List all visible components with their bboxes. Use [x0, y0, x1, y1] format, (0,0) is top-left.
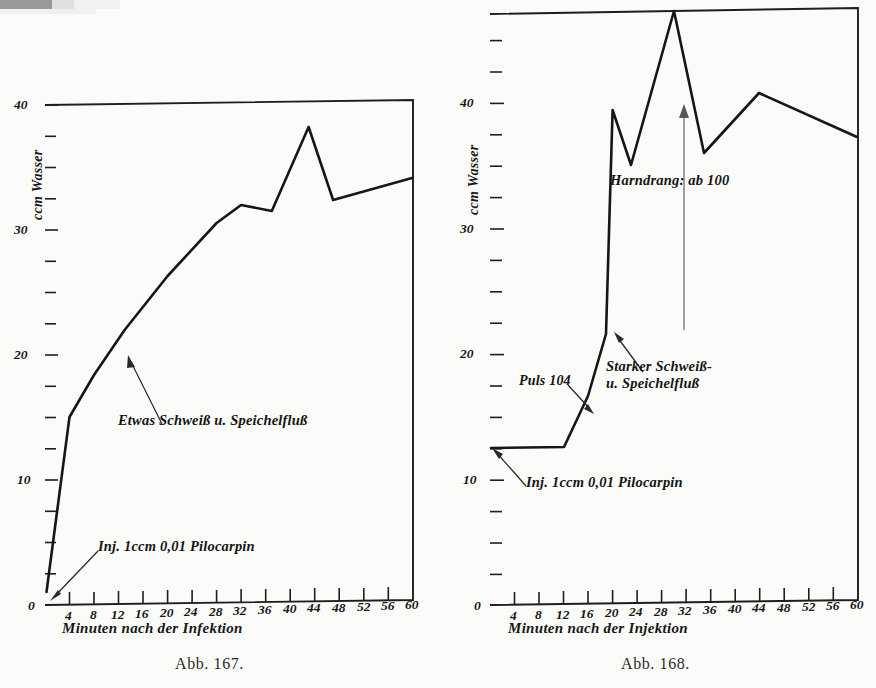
fig167-ytick-30: 30: [14, 222, 28, 238]
fig168-y-ticks: [490, 41, 504, 575]
fig168-ytick-10: 10: [463, 472, 477, 488]
fig168-annotation-urge-to-urinate: Harndrang: ab 100: [610, 172, 729, 189]
fig168-ytick-30: 30: [460, 221, 474, 237]
fig168-xtick-36: 36: [703, 602, 717, 618]
fig167-xtick-56: 56: [381, 598, 395, 614]
fig168-xtick-40: 40: [728, 601, 742, 617]
fig167-xtick-40: 40: [283, 601, 297, 617]
fig168-xtick-60: 60: [850, 597, 864, 613]
fig168-plot: [438, 0, 876, 640]
fig167-xtick-52: 52: [357, 599, 371, 615]
fig168-ytick-0: 0: [474, 598, 481, 614]
fig168-caption: Abb. 168.: [621, 655, 690, 673]
fig168-y-axis-label: ccm Wasser: [466, 144, 482, 215]
fig168-xtick-28: 28: [654, 604, 668, 620]
fig167-plot-frame: [45, 100, 413, 605]
fig167-ytick-10: 10: [17, 472, 31, 488]
fig168-annotation-pulse: Puls 104: [519, 373, 571, 390]
fig167-xtick-20: 20: [160, 605, 174, 621]
fig168-annotation-strong-sweat-saliva: Starker Schweiß- u. Speichelfluß: [606, 358, 712, 392]
fig168-annotation-injection: Inj. 1ccm 0,01 Pilocarpin: [526, 474, 683, 491]
fig168-xtick-52: 52: [802, 599, 816, 615]
fig167-ytick-40: 40: [14, 97, 28, 113]
fig168-xtick-32: 32: [678, 603, 692, 619]
fig167-xtick-48: 48: [332, 600, 346, 616]
scanned-page: ccm Wasser: [0, 0, 876, 688]
fig167-xtick-36: 36: [258, 602, 272, 618]
fig167-ytick-0: 0: [28, 598, 35, 614]
figure-168: ccm Wasser: [438, 0, 876, 688]
fig168-ytick-40: 40: [460, 95, 474, 111]
fig167-data-line: [47, 127, 413, 592]
fig167-ytick-20: 20: [14, 347, 28, 363]
fig168-x-axis-label: Minuten nach der Injektion: [508, 620, 688, 637]
fig167-xtick-24: 24: [184, 604, 198, 620]
fig167-x-axis-label: Minuten nach der Infektion: [62, 620, 243, 637]
fig167-caption: Abb. 167.: [175, 655, 244, 673]
fig167-xtick-28: 28: [209, 604, 223, 620]
fig168-annotation-strong-sweat-line1: Starker Schweiß-: [606, 358, 712, 375]
fig168-xtick-20: 20: [605, 605, 619, 621]
fig168-urge-leader: [679, 104, 689, 330]
fig168-plot-frame: [490, 8, 858, 605]
fig167-xtick-32: 32: [233, 603, 247, 619]
fig168-xtick-44: 44: [752, 600, 766, 616]
fig168-xtick-56: 56: [826, 598, 840, 614]
fig167-y-axis-label: ccm Wasser: [30, 149, 46, 220]
fig167-injection-leader: [50, 551, 98, 601]
fig167-xtick-44: 44: [307, 600, 321, 616]
figure-167: ccm Wasser: [0, 0, 438, 688]
fig168-annotation-strong-sweat-line2: u. Speichelfluß: [606, 375, 712, 392]
fig167-annotation-injection: Inj. 1ccm 0,01 Pilocarpin: [98, 538, 255, 555]
fig168-xtick-48: 48: [777, 600, 791, 616]
fig168-ytick-20: 20: [460, 346, 474, 362]
fig167-y-ticks: [45, 105, 58, 574]
fig167-xtick-60: 60: [405, 597, 419, 613]
fig168-xtick-24: 24: [629, 604, 643, 620]
fig167-annotation-sweat-saliva: Etwas Schweiß u. Speichelfluß: [118, 412, 308, 429]
